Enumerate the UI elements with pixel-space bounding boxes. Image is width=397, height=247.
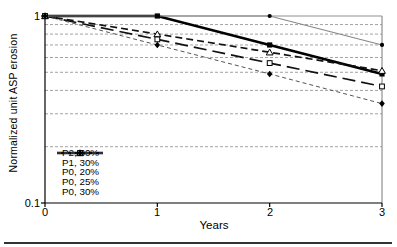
data-point-marker xyxy=(268,14,272,18)
legend-line-sample xyxy=(57,148,103,158)
bottom-rule xyxy=(4,242,392,244)
x-tick-label-3: 3 xyxy=(371,206,393,218)
series-line-p0-25- xyxy=(45,16,382,86)
data-point-marker xyxy=(155,37,160,42)
data-point-marker xyxy=(379,67,386,73)
data-point-marker xyxy=(155,13,160,18)
data-point-marker xyxy=(155,42,161,49)
y-axis-title: Normalized unit ASP erosion xyxy=(7,9,21,197)
x-tick-label-1: 1 xyxy=(146,206,168,218)
legend-item: P0, 30% xyxy=(57,187,99,197)
asp-erosion-chart: Normalized unit ASP erosion 1 0.1 0 1 2 … xyxy=(0,0,397,247)
data-point-marker xyxy=(267,71,273,78)
legend-label: P0, 30% xyxy=(62,187,99,197)
data-point-marker xyxy=(379,100,385,107)
legend: P2, 30% P1, 30% P0, 20% P0, 25% P0, 30% xyxy=(57,148,99,196)
chart-canvas xyxy=(0,0,397,247)
y-tick-label-1: 1 xyxy=(14,10,40,22)
data-point-marker xyxy=(380,84,385,89)
x-axis-title: Years xyxy=(164,219,264,231)
data-point-marker xyxy=(380,43,384,47)
data-point-marker xyxy=(267,42,272,47)
data-point-marker xyxy=(77,150,83,157)
x-tick-label-2: 2 xyxy=(259,206,281,218)
x-tick-label-0: 0 xyxy=(34,206,56,218)
data-point-marker xyxy=(267,61,272,66)
